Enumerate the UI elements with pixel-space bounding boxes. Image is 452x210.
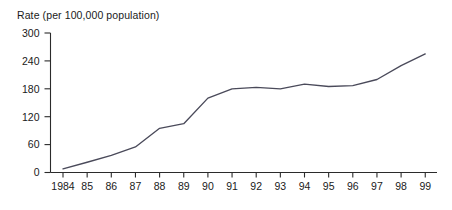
y-axis-tick-label: 180 [22,83,40,95]
y-axis-tick-label: 120 [22,111,40,123]
x-axis-tick-label: 89 [178,180,190,192]
y-axis-tick-label: 60 [28,138,40,150]
x-axis-tick-label: 90 [202,180,214,192]
y-axis-tick-label: 300 [22,27,40,39]
x-axis-tick-label: 86 [105,180,117,192]
data-series-line [63,54,425,169]
line-chart: Rate (per 100,000 population) 0601201802… [0,0,452,210]
x-axis-tick-label: 85 [81,180,93,192]
y-axis-tick-group: 060120180240300 [22,27,51,179]
chart-plot-area: 060120180240300 198485868788899091929394… [0,0,452,210]
x-axis-tick-group: 1984858687888990919293949596979899 [51,173,431,192]
x-axis-tick-label: 87 [130,180,142,192]
x-axis-tick-label: 88 [154,180,166,192]
x-axis-tick-label: 97 [371,180,383,192]
y-axis-tick-label: 240 [22,55,40,67]
y-axis-tick-label: 0 [34,166,40,178]
x-axis-tick-label: 91 [226,180,238,192]
x-axis-tick-label: 94 [299,180,311,192]
x-axis-tick-label: 93 [275,180,287,192]
x-axis-tick-label: 98 [395,180,407,192]
x-axis-tick-label: 92 [250,180,262,192]
x-axis-tick-label: 99 [419,180,431,192]
x-axis-tick-label: 95 [323,180,335,192]
x-axis-tick-label: 96 [347,180,359,192]
x-axis-tick-label: 1984 [51,180,75,192]
